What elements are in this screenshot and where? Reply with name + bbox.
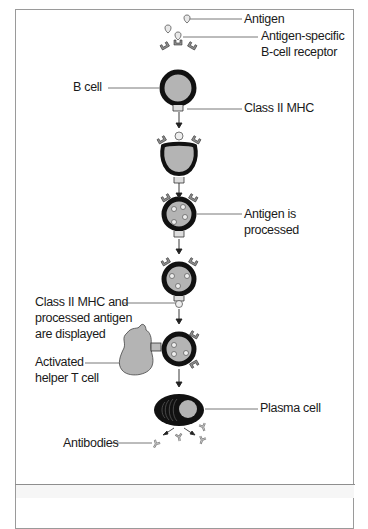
label-antigen: Antigen [244,12,284,27]
label-b-cell: B cell [73,80,102,95]
label-class2-mhc: Class II MHC [244,101,314,116]
helper-t-cell-step5 [119,324,199,375]
label-receptor-line1: Antigen-specific [261,29,344,44]
label-displayed-line3: are displayed [35,327,105,342]
label-processed-line1: Antigen is [244,207,296,222]
b-cell-step2 [157,132,201,183]
label-displayed-line1: Class II MHC and [35,295,128,310]
b-cell-step1 [160,15,197,111]
b-cell-step4 [161,258,198,308]
label-receptor-line2: B-cell receptor [261,45,337,60]
plasma-cell-step6 [151,394,207,449]
b-cell-step3 [161,194,198,237]
label-antibodies: Antibodies [63,436,118,451]
label-helper-line2: helper T cell [35,371,99,386]
label-helper-line1: Activated [35,355,84,370]
label-displayed-line2: processed antigen [35,311,132,326]
label-plasma-cell: Plasma cell [260,401,321,416]
label-processed-line2: processed [244,223,299,238]
